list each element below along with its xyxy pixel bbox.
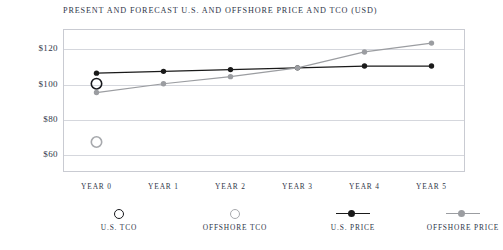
data-point <box>94 90 99 95</box>
data-point <box>228 74 233 79</box>
legend-label: OFFSHORE PRICE <box>403 223 503 232</box>
legend-marker-line <box>293 206 413 221</box>
data-point <box>429 40 434 45</box>
legend-label: U.S. PRICE <box>293 223 413 232</box>
x-tick-label: YEAR 0 <box>81 182 112 191</box>
legend-item-u-s-price[interactable]: U.S. PRICE <box>293 206 413 232</box>
legend-item-offshore-tco[interactable]: OFFSHORE TCO <box>175 206 295 232</box>
x-tick-label: YEAR 3 <box>282 182 313 191</box>
legend-item-offshore-price[interactable]: OFFSHORE PRICE <box>403 206 503 232</box>
data-point <box>429 63 434 68</box>
legend-item-u-s-tco[interactable]: U.S. TCO <box>59 206 179 232</box>
data-point <box>362 49 367 54</box>
data-point-marker <box>91 79 101 89</box>
data-point <box>94 70 99 75</box>
data-point <box>295 65 300 70</box>
marker-dot <box>348 210 355 217</box>
y-axis: $60$80$100$120 <box>8 0 58 250</box>
y-tick-label: $120 <box>12 43 58 53</box>
y-tick-label: $80 <box>12 114 58 124</box>
series-u-s-price <box>94 63 434 75</box>
data-point-marker <box>91 137 101 147</box>
series-offshore-tco <box>91 137 101 147</box>
data-point <box>161 69 166 74</box>
data-point <box>362 63 367 68</box>
legend-label: U.S. TCO <box>59 223 179 232</box>
series-u-s-tco <box>91 79 101 89</box>
series-layer <box>63 29 465 172</box>
y-tick-label: $60 <box>12 149 58 159</box>
series-line <box>97 43 432 92</box>
chart-legend: U.S. TCOOFFSHORE TCOU.S. PRICEOFFSHORE P… <box>63 206 473 246</box>
legend-marker-open-circle <box>175 206 295 221</box>
line-dot-icon <box>446 209 480 219</box>
legend-label: OFFSHORE TCO <box>175 223 295 232</box>
data-point <box>228 67 233 72</box>
x-axis: YEAR 0YEAR 1YEAR 2YEAR 3YEAR 4YEAR 5 <box>63 182 465 196</box>
x-tick-label: YEAR 1 <box>148 182 179 191</box>
open-circle-icon <box>230 209 240 219</box>
series-offshore-price <box>94 40 434 95</box>
chart-title: PRESENT AND FORECAST U.S. AND OFFSHORE P… <box>63 6 377 15</box>
legend-marker-line <box>403 206 503 221</box>
legend-marker-open-circle <box>59 206 179 221</box>
open-circle-icon <box>114 209 124 219</box>
data-point <box>161 81 166 86</box>
y-tick-label: $100 <box>12 79 58 89</box>
line-dot-icon <box>336 209 370 219</box>
x-tick-label: YEAR 5 <box>416 182 447 191</box>
x-tick-label: YEAR 4 <box>349 182 380 191</box>
x-tick-label: YEAR 2 <box>215 182 246 191</box>
marker-dot <box>458 210 465 217</box>
